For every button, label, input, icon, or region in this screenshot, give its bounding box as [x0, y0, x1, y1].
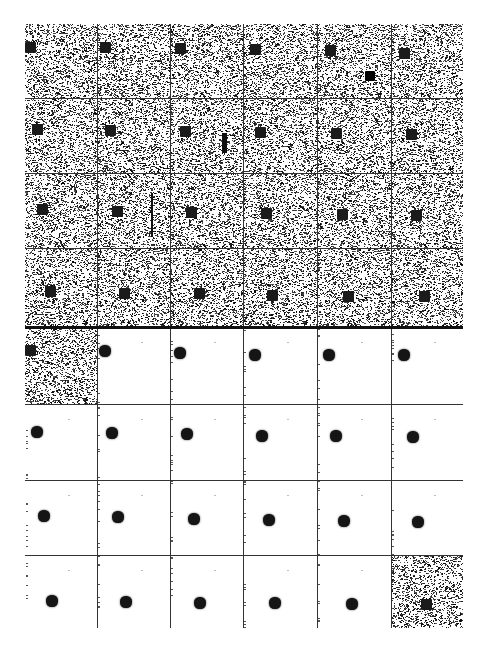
- edge-speck: [244, 395, 246, 396]
- edge-speck: [26, 441, 28, 442]
- edge-speck: [244, 587, 246, 588]
- estimate-frame: [25, 555, 97, 628]
- edge-speck: [98, 477, 100, 478]
- edge-speck: [26, 511, 28, 512]
- edge-speck: [244, 352, 246, 353]
- stray-pixel: [287, 570, 289, 571]
- tracked-object: [331, 128, 342, 139]
- grid-divider-horizontal: [25, 173, 463, 174]
- tracked-object: [411, 210, 422, 221]
- edge-speck: [26, 504, 28, 505]
- grid-divider-horizontal: [25, 404, 463, 405]
- edge-speck: [98, 449, 100, 450]
- observation-frame: [170, 24, 243, 98]
- edge-speck: [26, 436, 28, 437]
- edge-speck: [26, 540, 28, 541]
- edge-speck: [318, 565, 320, 566]
- stray-pixel: [434, 419, 436, 420]
- tracked-object: [100, 42, 111, 53]
- edge-speck: [171, 436, 173, 437]
- tracked-object: [399, 48, 410, 59]
- estimate-frame: [391, 480, 463, 555]
- edge-speck: [244, 542, 246, 543]
- edge-speck: [26, 536, 28, 537]
- observation-frame: [391, 173, 463, 248]
- edge-speck: [244, 602, 246, 603]
- edge-speck: [392, 354, 394, 355]
- edge-speck: [171, 417, 173, 418]
- estimate-frame: [243, 555, 317, 628]
- edge-speck: [318, 528, 320, 529]
- observation-frame: [170, 173, 243, 248]
- edge-speck: [318, 601, 320, 602]
- edge-speck: [244, 621, 246, 622]
- grid-divider-horizontal: [25, 480, 463, 481]
- tracked-object: [186, 207, 197, 218]
- estimate-frame: [391, 404, 463, 480]
- edge-speck: [171, 589, 173, 590]
- observation-frame: [97, 24, 170, 98]
- edge-speck: [318, 415, 320, 416]
- observation-frame: [243, 98, 317, 173]
- tracked-object: [99, 345, 111, 357]
- edge-speck: [318, 509, 320, 510]
- tracked-object: [323, 349, 335, 361]
- edge-speck: [171, 350, 173, 351]
- observation-frame: [97, 98, 170, 173]
- edge-speck: [244, 584, 246, 585]
- noise-texture: [25, 24, 97, 98]
- edge-speck: [171, 455, 173, 456]
- observation-frame: [170, 248, 243, 327]
- noise-texture: [243, 173, 317, 248]
- edge-speck: [26, 530, 28, 531]
- edge-speck: [171, 558, 173, 559]
- edge-speck: [244, 366, 246, 367]
- edge-speck: [392, 451, 394, 452]
- tracked-object: [180, 126, 191, 137]
- edge-speck: [392, 531, 394, 532]
- edge-speck: [98, 435, 100, 436]
- stray-pixel: [214, 570, 216, 571]
- noise-texture: [391, 98, 463, 173]
- estimate-frame: [170, 327, 243, 404]
- edge-speck: [244, 415, 246, 416]
- edge-speck: [244, 474, 246, 475]
- edge-speck: [244, 513, 246, 514]
- observation-frame: [97, 173, 170, 248]
- edge-speck: [26, 478, 28, 479]
- tracked-object: [112, 511, 124, 523]
- edge-speck: [244, 589, 246, 590]
- tracked-object: [406, 129, 417, 140]
- edge-speck: [98, 402, 100, 403]
- observation-frame: [170, 98, 243, 173]
- noise-texture: [243, 248, 317, 327]
- stray-pixel: [434, 495, 436, 496]
- observation-frame: [317, 98, 391, 173]
- tracked-object: [343, 291, 354, 302]
- edge-speck: [318, 464, 320, 465]
- edge-speck: [318, 540, 320, 541]
- edge-speck: [318, 380, 320, 381]
- tracked-object: [407, 431, 419, 443]
- edge-speck: [26, 566, 28, 567]
- edge-speck: [244, 330, 246, 331]
- edge-speck: [244, 371, 246, 372]
- noise-texture: [97, 24, 170, 98]
- observation-frame: [317, 248, 391, 327]
- noise-texture: [97, 248, 170, 327]
- estimate-frame: [170, 480, 243, 555]
- edge-speck: [171, 516, 173, 517]
- edge-speck: [98, 335, 100, 336]
- edge-speck: [98, 451, 100, 452]
- estimate-frame: [170, 555, 243, 628]
- estimate-frame: [170, 404, 243, 480]
- edge-speck: [98, 543, 100, 544]
- edge-speck: [171, 581, 173, 582]
- edge-speck: [392, 467, 394, 468]
- observation-frame: [317, 173, 391, 248]
- observation-frame: [97, 248, 170, 327]
- edge-speck: [171, 391, 173, 392]
- edge-speck: [244, 624, 246, 625]
- tracked-object: [46, 595, 58, 607]
- stray-pixel: [214, 419, 216, 420]
